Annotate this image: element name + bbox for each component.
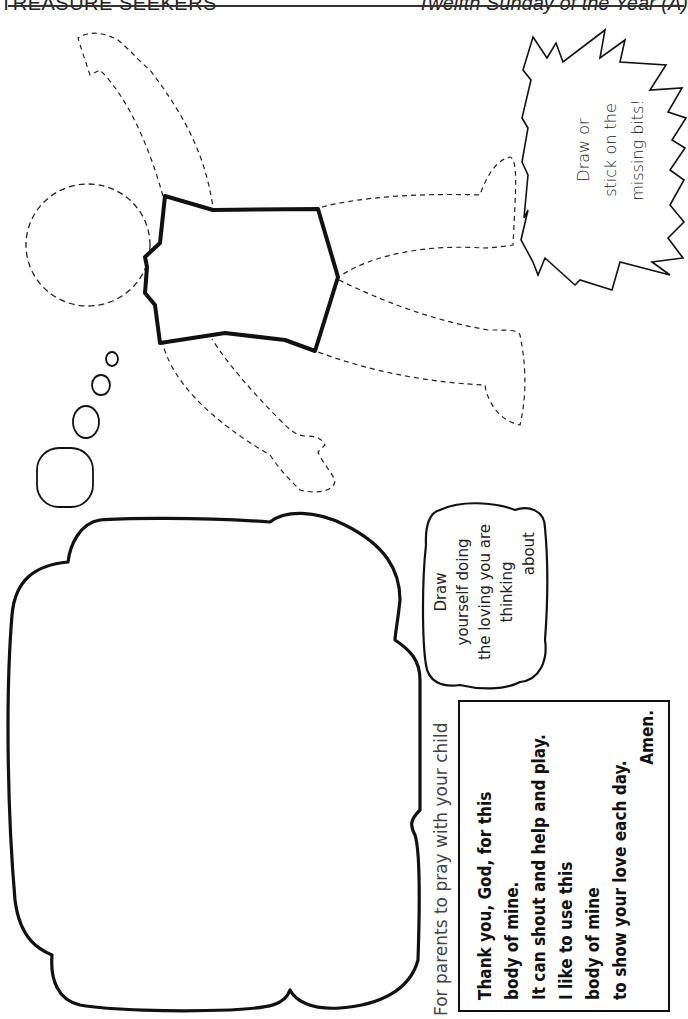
cloud-instruction: Draw yourself doing the loving you are t… [430,512,540,672]
head-outline [26,184,150,306]
cloud-line-5: about [518,512,540,672]
drawing-area-cloud [8,513,420,1010]
cloud-line-4: thinking [496,512,518,672]
prayer-line-6: to show your love each day. [607,710,634,1000]
prayer-line-4: I like to use this [553,710,580,1000]
burst-line-2: stick on the [597,70,624,230]
thought-bubble-small [106,352,118,366]
upper-arm-outline [78,33,213,208]
upper-leg-outline [322,157,516,276]
cloud-line-2: yourself doing [452,512,474,672]
prayer-amen: Amen. [634,710,661,1000]
lower-leg-outline [318,280,525,425]
prayer-line-3: It can shout and help and play. [526,710,553,1000]
prayer-line-2: body of mine. [499,710,526,1000]
burst-line-3: missing bits! [624,70,651,230]
lower-arm-outline [162,339,335,492]
prayer-text: Thank you, God, for this body of mine. I… [472,710,661,1000]
cloud-line-3: the loving you are [474,512,496,672]
burst-line-1: Draw or [570,70,597,230]
prayer-line-5: body of mine [580,710,607,1000]
thought-bubble-xlarge [37,448,93,507]
prayer-label: For parents to pray with your child [431,722,451,1016]
burst-instruction: Draw or stick on the missing bits! [570,70,651,230]
prayer-line-1: Thank you, God, for this [472,710,499,1000]
thought-bubble-medium [92,375,110,395]
torso-outline [145,196,338,351]
cloud-line-1: Draw [430,512,452,672]
thought-bubble-large [73,406,99,438]
